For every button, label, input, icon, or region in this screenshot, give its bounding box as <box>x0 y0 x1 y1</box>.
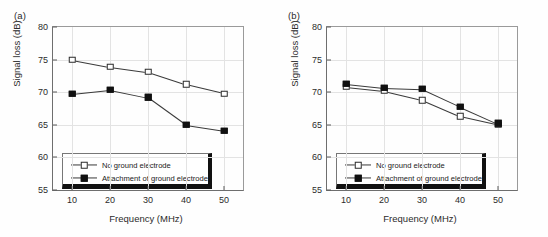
data-point-marker <box>343 80 350 87</box>
data-point-marker <box>69 90 76 97</box>
y-axis-tick-label: 70 <box>38 87 48 97</box>
legend-label: No ground electrode <box>376 161 445 170</box>
x-axis-label: Frequency (MHz) <box>46 213 246 224</box>
x-axis-tick-label: 30 <box>417 195 427 205</box>
x-axis-tick-label: 10 <box>67 195 77 205</box>
data-point-marker <box>457 103 464 110</box>
x-axis-tick-mark <box>72 186 73 190</box>
filled-square-marker-icon <box>345 173 371 183</box>
gridline-vertical <box>186 27 187 190</box>
y-axis-tick-label: 60 <box>38 152 48 162</box>
gridline-vertical <box>72 27 73 190</box>
y-axis-tick-label: 55 <box>312 185 322 195</box>
gridline-vertical <box>110 27 111 190</box>
data-line-segment <box>72 60 110 68</box>
y-axis-tick-mark <box>53 157 57 158</box>
data-point-marker <box>221 90 228 97</box>
open-square-marker-icon <box>71 160 97 170</box>
legend-label: Attachment of ground electrode <box>102 174 208 183</box>
gridline-vertical <box>224 27 225 190</box>
data-line-segment <box>148 98 187 126</box>
y-axis-tick-label: 75 <box>38 55 48 65</box>
y-axis-tick-mark <box>327 92 331 93</box>
x-axis-tick-label: 50 <box>219 195 229 205</box>
plot-area-b: No ground electrode Attachment of ground… <box>326 26 518 191</box>
x-axis-tick-label: 50 <box>493 195 503 205</box>
gridline-vertical <box>498 27 499 190</box>
x-axis-tick-mark <box>498 186 499 190</box>
chart-panel-b: (b) Signal loss (dB) Frequency (MHz) No … <box>274 0 548 237</box>
y-axis-label: Signal loss (dB) <box>11 0 22 114</box>
legend-entry-no-ground-electrode: No ground electrode <box>345 159 445 171</box>
y-axis-tick-mark <box>53 27 57 28</box>
data-line-segment <box>186 125 224 132</box>
x-axis-tick-label: 20 <box>379 195 389 205</box>
data-line-segment <box>110 90 148 99</box>
data-point-marker <box>183 81 190 88</box>
x-axis-tick-label: 10 <box>341 195 351 205</box>
y-axis-tick-mark <box>327 27 331 28</box>
data-point-marker <box>107 86 114 93</box>
y-axis-tick-label: 80 <box>38 22 48 32</box>
data-line-segment <box>422 100 460 117</box>
x-axis-tick-mark <box>346 186 347 190</box>
y-axis-tick-mark <box>53 92 57 93</box>
y-axis-tick-mark <box>53 190 57 191</box>
data-point-marker <box>419 86 426 93</box>
x-axis-tick-mark <box>148 186 149 190</box>
data-point-marker <box>381 84 388 91</box>
x-axis-tick-label: 20 <box>105 195 115 205</box>
gridline-vertical <box>148 27 149 190</box>
y-axis-tick-label: 65 <box>38 120 48 130</box>
x-axis-tick-mark <box>422 186 423 190</box>
y-axis-tick-mark <box>327 124 331 125</box>
x-axis-tick-mark <box>224 186 225 190</box>
x-axis-tick-mark <box>384 186 385 190</box>
data-point-marker <box>457 113 464 120</box>
y-axis-tick-mark <box>327 190 331 191</box>
data-line-segment <box>460 107 498 125</box>
data-point-marker <box>419 97 426 104</box>
x-axis-label: Frequency (MHz) <box>320 213 520 224</box>
figure-signal-loss-vs-frequency: (a) Signal loss (dB) Frequency (MHz) No … <box>0 0 548 237</box>
legend-entry-attachment-of-ground-electrode: Attachment of ground electrode <box>71 172 208 184</box>
data-line-segment <box>148 72 186 85</box>
y-axis-tick-label: 75 <box>312 55 322 65</box>
data-point-marker <box>145 69 152 76</box>
gridline-vertical <box>384 27 385 190</box>
legend-entry-attachment-of-ground-electrode: Attachment of ground electrode <box>345 172 482 184</box>
data-point-marker <box>495 120 502 127</box>
y-axis-tick-mark <box>327 59 331 60</box>
data-point-marker <box>107 64 114 71</box>
legend-label: Attachment of ground electrode <box>376 174 482 183</box>
data-line-segment <box>384 88 422 90</box>
x-axis-tick-label: 40 <box>181 195 191 205</box>
gridline-vertical <box>422 27 423 190</box>
x-axis-tick-mark <box>110 186 111 190</box>
legend-a: No ground electrode Attachment of ground… <box>62 153 212 189</box>
legend-label: No ground electrode <box>102 161 171 170</box>
x-axis-tick-mark <box>460 186 461 190</box>
data-point-marker <box>145 94 152 101</box>
x-axis-tick-label: 30 <box>143 195 153 205</box>
legend-b: No ground electrode Attachment of ground… <box>336 153 486 189</box>
chart-panel-a: (a) Signal loss (dB) Frequency (MHz) No … <box>0 0 274 237</box>
y-axis-tick-label: 80 <box>312 22 322 32</box>
y-axis-tick-mark <box>53 124 57 125</box>
legend-entry-no-ground-electrode: No ground electrode <box>71 159 171 171</box>
y-axis-tick-label: 55 <box>38 185 48 195</box>
x-axis-tick-mark <box>186 186 187 190</box>
y-axis-tick-mark <box>53 59 57 60</box>
filled-square-marker-icon <box>71 173 97 183</box>
y-axis-tick-label: 65 <box>312 120 322 130</box>
data-point-marker <box>183 122 190 129</box>
y-axis-label: Signal loss (dB) <box>289 0 300 114</box>
data-point-marker <box>69 56 76 63</box>
plot-area-a: No ground electrode Attachment of ground… <box>52 26 244 191</box>
open-square-marker-icon <box>345 160 371 170</box>
x-axis-tick-label: 40 <box>455 195 465 205</box>
gridline-vertical <box>346 27 347 190</box>
data-point-marker <box>221 127 228 134</box>
y-axis-tick-label: 60 <box>312 152 322 162</box>
data-line-segment <box>110 67 148 73</box>
